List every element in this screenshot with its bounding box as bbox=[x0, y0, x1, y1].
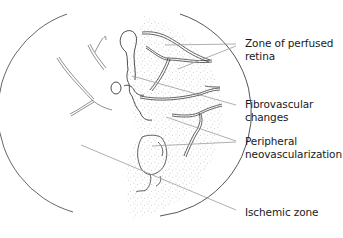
label-zone-of-perfused-retina: Zone of perfused retina bbox=[245, 37, 333, 63]
label-line: Zone of perfused bbox=[245, 37, 333, 50]
label-line: changes bbox=[245, 111, 313, 124]
label-peripheral-neovascularization: Peripheral neovascularization bbox=[245, 135, 342, 161]
label-line: Ischemic zone bbox=[245, 206, 318, 219]
label-line: Fibrovascular bbox=[245, 98, 313, 111]
fundus-left-arc bbox=[0, 14, 73, 212]
label-fibrovascular-changes: Fibrovascular changes bbox=[245, 98, 313, 124]
label-line: neovascularization bbox=[245, 148, 342, 161]
label-line: Peripheral bbox=[245, 135, 342, 148]
label-line: retina bbox=[245, 50, 333, 63]
label-ischemic-zone: Ischemic zone bbox=[245, 206, 318, 219]
left-vessels bbox=[57, 36, 112, 116]
